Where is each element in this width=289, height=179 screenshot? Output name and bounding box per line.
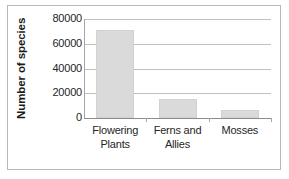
bar-flowering-plants [96,30,134,118]
y-axis-title: Number of species [12,19,30,119]
x-axis-label: Mosses [209,124,271,138]
y-tick-label: 40000 [36,63,82,74]
x-axis-tick-labels: FloweringPlantsFerns andAlliesMosses [84,124,272,164]
x-tick-mark [209,118,210,122]
y-tick-label: 0 [36,112,82,123]
y-axis-line [84,19,85,119]
x-axis-label-line: Ferns and [146,124,208,138]
gridline-80000 [84,19,271,20]
bar-mosses [221,110,259,118]
x-axis-label-line: Flowering [84,124,146,138]
x-tick-mark [271,118,272,122]
y-tick-label: 20000 [36,87,82,98]
y-tick-label: 80000 [36,13,82,24]
x-axis-label-line: Mosses [209,124,271,138]
x-axis-label: Ferns andAllies [146,124,208,151]
bar-chart-figure: Number of species 020000400006000080000 … [0,0,289,179]
y-tick-label: 60000 [36,38,82,49]
y-axis-tick-labels: 020000400006000080000 [34,0,82,179]
x-tick-mark [146,118,147,122]
x-axis-line [84,118,272,119]
x-axis-label-line: Allies [146,138,208,152]
bar-ferns-and-allies [159,99,197,118]
x-axis-label-line: Plants [84,138,146,152]
x-axis-label: FloweringPlants [84,124,146,151]
plot-area [84,19,271,118]
